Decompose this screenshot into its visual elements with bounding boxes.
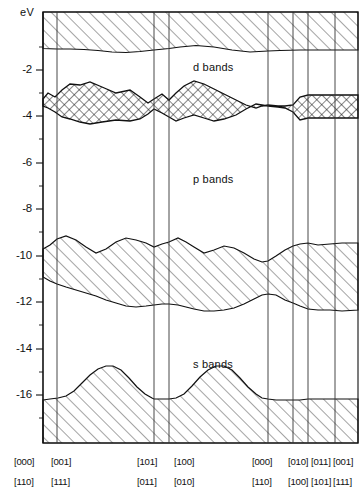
k-label-top-5: [010] xyxy=(288,456,308,467)
y-tick-label-1: -2 xyxy=(2,63,32,75)
y-tick-label-4: -8 xyxy=(2,202,32,214)
k-label-bottom-0: [110] xyxy=(14,476,34,487)
k-label-bottom-2: [011] xyxy=(137,476,157,487)
p-bands-region xyxy=(43,236,358,311)
y-tick-label-5: -10 xyxy=(2,249,32,261)
k-label-bottom-6: [101] xyxy=(311,476,331,487)
k-label-bottom-4: [110] xyxy=(252,476,272,487)
d-bands-region xyxy=(43,81,358,124)
k-label-top-3: [100] xyxy=(174,456,194,467)
k-label-bottom-7: [111] xyxy=(333,476,352,487)
y-tick-label-8: -16 xyxy=(2,388,32,400)
y-tick-label-6: -12 xyxy=(2,295,32,307)
k-label-top-6: [011] xyxy=(311,456,331,467)
band-structure-figure: eV xyxy=(0,0,364,500)
band-label-p: p bands xyxy=(193,173,234,185)
y-tick-label-7: -14 xyxy=(2,342,32,354)
y-tick-label-3: -6 xyxy=(2,156,32,168)
k-label-top-0: [000] xyxy=(14,456,34,467)
y-tick-label-2: -4 xyxy=(2,109,32,121)
k-label-top-1: [001] xyxy=(51,456,71,467)
band-structure-plot xyxy=(0,0,364,500)
conduction-band-region xyxy=(43,12,358,53)
band-label-s: s bands xyxy=(193,358,233,370)
k-label-bottom-1: [111] xyxy=(51,476,70,487)
k-label-top-4: [000] xyxy=(252,456,272,467)
y-axis xyxy=(36,12,43,443)
s-bands-region xyxy=(43,366,358,443)
band-label-d: d bands xyxy=(193,61,234,73)
k-label-top-2: [101] xyxy=(137,456,157,467)
k-label-bottom-3: [010] xyxy=(174,476,194,487)
k-label-bottom-5: [100] xyxy=(288,476,308,487)
k-label-top-7: [001] xyxy=(333,456,353,467)
